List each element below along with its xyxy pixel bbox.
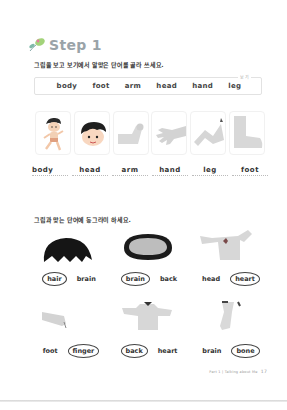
hair-icon xyxy=(38,232,98,267)
section2-instruction: 그림과 맞는 단어에 동그라미 하세요. xyxy=(34,215,131,224)
answer-blank[interactable]: head xyxy=(72,166,108,176)
boy-head-icon xyxy=(75,112,111,156)
word-bank-item: head xyxy=(156,82,177,90)
foot-icon xyxy=(230,112,266,156)
word-bank-item: hand xyxy=(192,82,213,90)
brain-icon xyxy=(118,230,178,265)
word-bank: 보기 body foot arm head hand leg xyxy=(34,77,262,95)
option-circled[interactable]: bone xyxy=(231,344,259,358)
option[interactable]: heart xyxy=(156,345,180,357)
page-number: 17 xyxy=(261,369,267,374)
options: brain bone xyxy=(190,344,270,358)
step-header: Step 1 xyxy=(27,36,102,54)
options: hair brain xyxy=(30,272,110,286)
answer-row: body head arm hand leg foot xyxy=(32,166,268,176)
picture-row xyxy=(35,111,265,157)
option-circled[interactable]: heart xyxy=(230,272,260,286)
answer-blank[interactable]: hand xyxy=(152,166,188,176)
word-bank-item: body xyxy=(57,82,78,90)
option-circled[interactable]: hair xyxy=(42,272,66,286)
page-edge-divider xyxy=(0,400,287,402)
hand-icon xyxy=(152,112,188,156)
option[interactable]: brain xyxy=(200,345,223,357)
answer-blank[interactable]: leg xyxy=(192,166,228,176)
arm-icon xyxy=(114,112,150,156)
word-bank-item: foot xyxy=(92,82,109,90)
option[interactable]: back xyxy=(158,273,179,285)
word-bank-item: leg xyxy=(228,82,241,90)
option[interactable]: foot xyxy=(41,345,60,357)
options: head heart xyxy=(190,272,270,286)
picture-card xyxy=(74,111,110,155)
answer-blank[interactable]: arm xyxy=(112,166,148,176)
answer-blank[interactable]: foot xyxy=(232,166,268,176)
leaf-sprout-icon xyxy=(27,37,47,53)
word-bank-item: arm xyxy=(125,82,141,90)
answer-blank[interactable]: body xyxy=(32,166,68,176)
heart-chest-icon xyxy=(198,228,258,263)
options: brain back xyxy=(110,272,190,286)
leg-icon xyxy=(191,112,227,156)
picture-card xyxy=(151,111,187,155)
picture-card xyxy=(113,111,149,155)
option[interactable]: head xyxy=(200,273,222,285)
option[interactable]: brain xyxy=(75,273,98,285)
page-footer: Part 1 | Talking about Me 17 xyxy=(209,369,267,374)
options: back heart xyxy=(110,344,190,358)
footer-label: Part 1 | Talking about Me xyxy=(209,370,257,374)
picture-card xyxy=(190,111,226,155)
picture-card xyxy=(229,111,265,155)
option-circled[interactable]: brain xyxy=(121,272,150,286)
running-boy-icon xyxy=(36,112,72,156)
step-title: Step 1 xyxy=(49,37,102,53)
back-icon xyxy=(118,298,178,333)
option-circled[interactable]: back xyxy=(121,344,148,358)
word-bank-tag: 보기 xyxy=(238,74,251,80)
bone-leg-icon xyxy=(198,298,258,333)
picture-card xyxy=(35,111,71,155)
finger-icon xyxy=(38,300,98,335)
option-circled[interactable]: finger xyxy=(68,344,100,358)
options: foot finger xyxy=(30,344,110,358)
section1-instruction: 그림을 보고 보기에서 알맞은 단어를 골라 쓰세요. xyxy=(34,60,163,69)
